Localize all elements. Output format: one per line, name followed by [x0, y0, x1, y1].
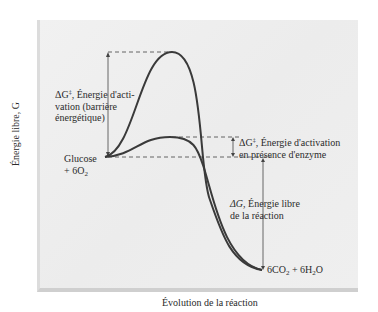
products-label: 6CO2 + 6H2O: [267, 264, 323, 280]
curve-uncatalyzed: [105, 52, 262, 270]
reaction-energy-label: ΔG, Énergie libre de la réaction: [230, 198, 300, 221]
uncatalyzed-activation-label: ΔG‡, Énergie d'acti- vation (barrière én…: [55, 87, 135, 124]
x-axis-label: Évolution de la réaction: [162, 297, 258, 308]
y-axis-label: Énergie libre, G: [10, 102, 21, 166]
catalyzed-activation-label: ΔG‡, Énergie d'activation en présence d'…: [239, 135, 340, 160]
reactants-label: Glucose + 6O2: [64, 153, 97, 180]
